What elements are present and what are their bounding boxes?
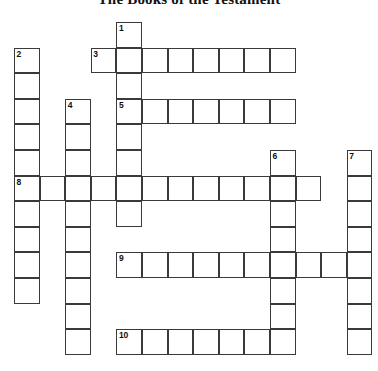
crossword-cell[interactable] bbox=[244, 176, 270, 202]
crossword-cell[interactable] bbox=[193, 48, 219, 74]
crossword-cell[interactable] bbox=[244, 99, 270, 125]
crossword-cell[interactable] bbox=[347, 329, 373, 355]
cell-number: 10 bbox=[119, 330, 128, 340]
crossword-cell[interactable] bbox=[270, 252, 296, 278]
crossword-puzzle: The Books of the Testament 15283467910 bbox=[0, 0, 378, 371]
crossword-cell[interactable]: 10 bbox=[116, 329, 142, 355]
crossword-cell[interactable] bbox=[270, 227, 296, 253]
crossword-cell[interactable] bbox=[219, 48, 245, 74]
crossword-cell[interactable] bbox=[193, 176, 219, 202]
crossword-cell[interactable] bbox=[14, 227, 40, 253]
crossword-cell[interactable] bbox=[116, 124, 142, 150]
crossword-cell[interactable] bbox=[296, 176, 322, 202]
cell-number: 2 bbox=[17, 49, 22, 59]
crossword-cell[interactable] bbox=[347, 201, 373, 227]
crossword-cell[interactable] bbox=[65, 227, 91, 253]
crossword-cell[interactable] bbox=[116, 201, 142, 227]
crossword-cell[interactable]: 1 bbox=[116, 22, 142, 48]
cell-number: 3 bbox=[93, 49, 98, 59]
crossword-cell[interactable] bbox=[270, 304, 296, 330]
crossword-cell[interactable] bbox=[40, 176, 66, 202]
crossword-cell[interactable]: 3 bbox=[91, 48, 117, 74]
crossword-cell[interactable] bbox=[14, 99, 40, 125]
cell-number: 1 bbox=[119, 23, 124, 33]
crossword-cell[interactable] bbox=[219, 99, 245, 125]
crossword-cell[interactable] bbox=[142, 329, 168, 355]
crossword-cell[interactable] bbox=[65, 304, 91, 330]
crossword-cell[interactable] bbox=[321, 252, 347, 278]
crossword-cell[interactable] bbox=[347, 278, 373, 304]
crossword-cell[interactable]: 2 bbox=[14, 48, 40, 74]
crossword-cell[interactable] bbox=[116, 150, 142, 176]
crossword-cell[interactable] bbox=[168, 329, 194, 355]
crossword-cell[interactable] bbox=[168, 252, 194, 278]
crossword-cell[interactable] bbox=[14, 252, 40, 278]
cell-number: 5 bbox=[119, 100, 124, 110]
crossword-cell[interactable] bbox=[65, 252, 91, 278]
crossword-cell[interactable] bbox=[65, 124, 91, 150]
crossword-cell[interactable] bbox=[142, 176, 168, 202]
cell-number: 7 bbox=[349, 151, 354, 161]
cell-number: 6 bbox=[273, 151, 278, 161]
crossword-cell[interactable] bbox=[270, 99, 296, 125]
crossword-cell[interactable] bbox=[14, 150, 40, 176]
crossword-cell[interactable] bbox=[270, 329, 296, 355]
cell-number: 9 bbox=[119, 253, 124, 263]
crossword-cell[interactable] bbox=[65, 278, 91, 304]
crossword-cell[interactable] bbox=[193, 99, 219, 125]
cell-number: 4 bbox=[68, 100, 73, 110]
crossword-cell[interactable] bbox=[270, 278, 296, 304]
crossword-grid[interactable]: 15283467910 bbox=[0, 0, 378, 371]
crossword-cell[interactable] bbox=[168, 99, 194, 125]
crossword-cell[interactable] bbox=[193, 252, 219, 278]
crossword-cell[interactable] bbox=[14, 73, 40, 99]
crossword-cell[interactable]: 6 bbox=[270, 150, 296, 176]
crossword-cell[interactable] bbox=[347, 176, 373, 202]
crossword-cell[interactable] bbox=[219, 329, 245, 355]
crossword-cell[interactable] bbox=[142, 48, 168, 74]
crossword-cell[interactable] bbox=[347, 227, 373, 253]
crossword-cell[interactable] bbox=[219, 252, 245, 278]
crossword-cell[interactable] bbox=[219, 176, 245, 202]
crossword-cell[interactable] bbox=[116, 48, 142, 74]
crossword-cell[interactable] bbox=[244, 48, 270, 74]
crossword-cell[interactable] bbox=[65, 176, 91, 202]
crossword-cell[interactable] bbox=[347, 304, 373, 330]
crossword-cell[interactable] bbox=[270, 201, 296, 227]
crossword-cell[interactable] bbox=[244, 252, 270, 278]
crossword-cell[interactable]: 8 bbox=[14, 176, 40, 202]
crossword-cell[interactable]: 9 bbox=[116, 252, 142, 278]
crossword-cell[interactable] bbox=[116, 176, 142, 202]
crossword-cell[interactable] bbox=[168, 48, 194, 74]
cell-number: 8 bbox=[17, 177, 22, 187]
crossword-cell[interactable] bbox=[296, 252, 322, 278]
crossword-cell[interactable] bbox=[116, 73, 142, 99]
crossword-cell[interactable]: 4 bbox=[65, 99, 91, 125]
crossword-cell[interactable] bbox=[193, 329, 219, 355]
crossword-cell[interactable] bbox=[65, 150, 91, 176]
crossword-cell[interactable] bbox=[347, 252, 373, 278]
crossword-cell[interactable] bbox=[14, 278, 40, 304]
crossword-cell[interactable] bbox=[65, 201, 91, 227]
crossword-cell[interactable] bbox=[14, 124, 40, 150]
crossword-cell[interactable] bbox=[244, 329, 270, 355]
crossword-cell[interactable] bbox=[142, 252, 168, 278]
crossword-cell[interactable] bbox=[270, 48, 296, 74]
crossword-cell[interactable] bbox=[168, 176, 194, 202]
crossword-cell[interactable]: 5 bbox=[116, 99, 142, 125]
crossword-cell[interactable] bbox=[65, 329, 91, 355]
crossword-cell[interactable]: 7 bbox=[347, 150, 373, 176]
crossword-cell[interactable] bbox=[14, 201, 40, 227]
crossword-cell[interactable] bbox=[270, 176, 296, 202]
crossword-cell[interactable] bbox=[142, 99, 168, 125]
crossword-cell[interactable] bbox=[91, 176, 117, 202]
